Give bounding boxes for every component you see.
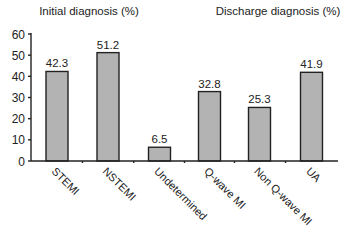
bar-chart: Initial diagnosis (%)Discharge diagnosis…	[0, 0, 347, 235]
x-tick-label: Q-wave MI	[202, 165, 248, 211]
group-title-discharge: Discharge diagnosis (%)	[216, 5, 341, 17]
bar-non-q-wave-mi	[249, 107, 271, 161]
bar-q-wave-mi	[199, 92, 221, 161]
y-tick-label: 30	[12, 91, 26, 105]
value-label: 32.8	[198, 78, 220, 90]
y-tick-label: 20	[12, 112, 26, 126]
group-title-initial: Initial diagnosis (%)	[39, 5, 139, 17]
value-label: 6.5	[152, 133, 168, 145]
value-label: 41.9	[300, 58, 322, 70]
x-tick-label: UA	[304, 165, 324, 185]
bar-nstemi	[97, 53, 119, 161]
value-label: 51.2	[97, 39, 119, 51]
bar-ua	[301, 72, 323, 161]
bar-stemi	[46, 71, 68, 161]
y-tick-label: 10	[12, 133, 26, 147]
y-tick-label: 60	[12, 28, 26, 42]
value-label: 42.3	[46, 57, 68, 69]
value-label: 25.3	[248, 93, 270, 105]
y-tick-label: 0	[18, 155, 25, 169]
x-tick-label: NSTEMI	[101, 165, 139, 203]
y-tick-label: 50	[12, 49, 26, 63]
x-tick-label: Undetermined	[152, 165, 209, 222]
x-tick-label: STEMI	[50, 165, 82, 197]
bar-undetermined	[149, 147, 171, 161]
y-tick-label: 40	[12, 70, 26, 84]
